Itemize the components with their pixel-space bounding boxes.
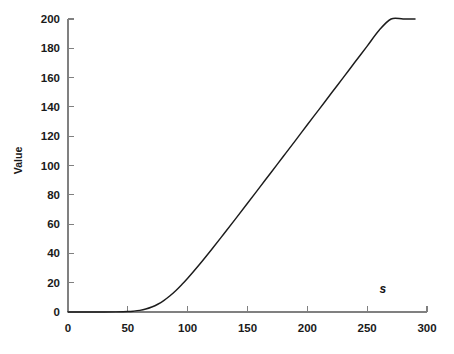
y-tick-label: 20 [47,277,60,289]
y-axis-ticks [68,19,74,312]
x-axis-tick-labels: 050100150200250300 [65,322,437,334]
data-series-group [68,18,415,312]
x-axis-group: 050100150200250300 [65,306,437,334]
y-tick-label: 140 [41,101,60,113]
y-tick-label: 60 [47,218,60,230]
y-axis-title: Value [12,147,24,175]
x-tick-label: 100 [178,322,197,334]
data-curve [68,18,415,312]
annotation-s-label: s [379,282,386,296]
y-tick-label: 200 [41,13,60,25]
chart-container: 020406080100120140160180200 050100150200… [0,0,454,354]
y-tick-label: 120 [41,130,60,142]
y-tick-label: 100 [41,160,60,172]
y-tick-label: 180 [41,42,60,54]
y-tick-label: 80 [47,189,60,201]
x-tick-label: 250 [358,322,377,334]
y-tick-label: 40 [47,247,60,259]
y-tick-label: 0 [54,306,60,318]
x-tick-label: 200 [298,322,317,334]
y-axis-group: 020406080100120140160180200 [41,13,74,318]
x-tick-label: 300 [417,322,436,334]
y-tick-label: 160 [41,72,60,84]
y-axis-tick-labels: 020406080100120140160180200 [41,13,60,318]
x-tick-label: 0 [65,322,71,334]
chart-annotations: s [379,282,386,296]
x-tick-label: 50 [121,322,134,334]
chart-svg: 020406080100120140160180200 050100150200… [0,0,454,354]
x-tick-label: 150 [238,322,257,334]
